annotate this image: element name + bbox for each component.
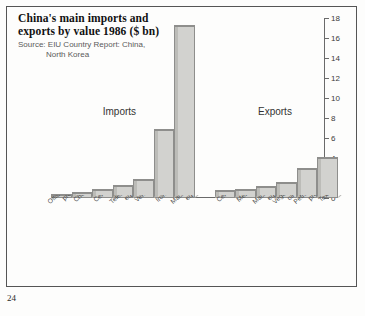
group-label: Exports xyxy=(258,106,292,117)
category-label: Textiles, clothing and yarn xyxy=(317,195,349,203)
bar-top-face xyxy=(317,157,338,159)
y-tick-label: 8 xyxy=(331,114,335,123)
bar-top-face xyxy=(174,25,195,27)
bar-top-face xyxy=(215,190,236,192)
bar-side-face xyxy=(175,26,178,197)
page-number: 24 xyxy=(7,293,16,303)
y-tick-label: 16 xyxy=(331,34,340,43)
bar-top-face xyxy=(133,179,154,181)
chart-frame: China's main imports and exports by valu… xyxy=(6,6,357,287)
label-rule xyxy=(338,195,350,198)
y-tick-label: 6 xyxy=(331,134,335,143)
category-labels: Office machines and dataprocessorsChemic… xyxy=(17,195,349,287)
bar xyxy=(174,25,195,198)
y-tick-label: 10 xyxy=(331,94,340,103)
bar-side-face xyxy=(318,158,321,197)
bar-side-face xyxy=(298,169,301,197)
bar xyxy=(154,129,175,198)
bar-side-face xyxy=(155,130,158,197)
bar-top-face xyxy=(276,182,297,184)
bar-top-face xyxy=(72,192,93,194)
group-label: Imports xyxy=(103,106,136,117)
plot-area: 024681012141618 ImportsExports Office ma… xyxy=(7,7,358,288)
bar-top-face xyxy=(235,189,256,191)
bar xyxy=(297,168,318,198)
bar-top-face xyxy=(256,186,277,188)
chart-page: China's main imports and exports by valu… xyxy=(0,0,365,316)
y-tick-label: 18 xyxy=(331,14,340,23)
bar-top-face xyxy=(297,168,318,170)
bar-top-face xyxy=(92,189,113,191)
bar xyxy=(317,157,338,198)
bar-top-face xyxy=(154,129,175,131)
bar-top-face xyxy=(113,185,134,187)
y-tick-label: 12 xyxy=(331,74,340,83)
y-tick-label: 14 xyxy=(331,54,340,63)
category-label: Cereals xyxy=(215,195,237,203)
